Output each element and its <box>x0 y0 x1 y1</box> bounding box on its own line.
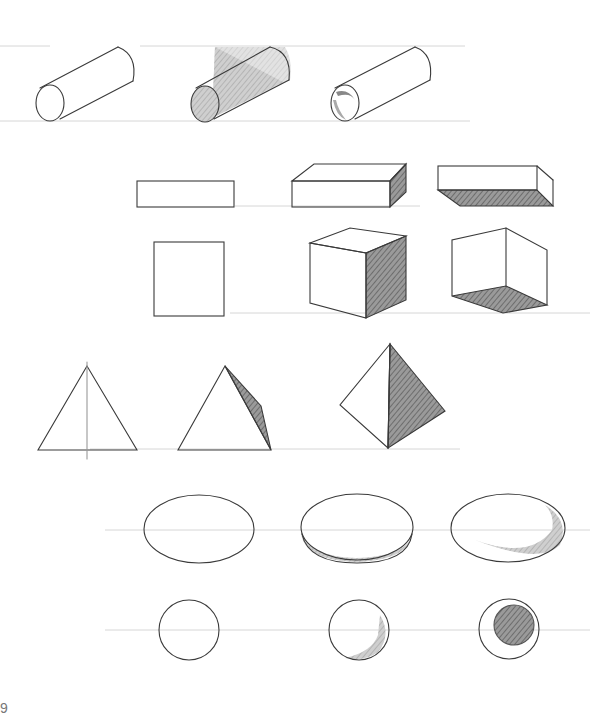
box-shaded-side <box>292 164 406 207</box>
page-number: 9 <box>0 700 8 716</box>
open-cube-shaded-floor <box>452 228 547 313</box>
ellipse-outline <box>144 495 254 563</box>
triangle-guide <box>38 362 137 459</box>
rectangle-flat <box>137 181 234 207</box>
dish-crescent <box>451 494 565 562</box>
hollow-tube <box>331 47 431 121</box>
triangle-shaded-edge <box>178 366 271 450</box>
box-from-below <box>438 166 553 206</box>
ring-inner-disc <box>479 599 539 659</box>
cylinder-outline <box>36 47 134 121</box>
cube-shaded-face <box>310 228 406 318</box>
guide-lines <box>0 46 590 630</box>
square <box>154 242 224 316</box>
tetrahedron <box>340 344 445 448</box>
disc-shaded-rim <box>301 494 413 563</box>
cylinder-shaded <box>191 47 291 122</box>
sketch-canvas <box>0 0 599 716</box>
